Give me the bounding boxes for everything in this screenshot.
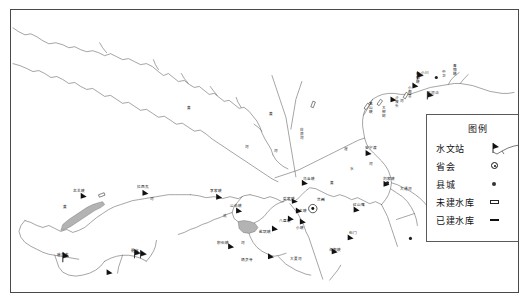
reservoir-label: 拉西瓦 <box>137 186 149 190</box>
hydro-station-symbols <box>63 72 434 263</box>
legend-label: 省会 <box>436 160 482 173</box>
county-dot-icon <box>492 182 496 186</box>
legend-item-planned-reservoir: 未建水库 <box>427 193 519 211</box>
legend-symbol-county <box>482 176 519 192</box>
legend-item-built-reservoir: 已建水库 <box>427 211 519 229</box>
legend-label: 水文站 <box>436 142 482 155</box>
station-flag-icon <box>140 250 146 258</box>
river-label: 水 <box>350 168 354 172</box>
station-label: 小川 <box>421 72 429 76</box>
reservoir-label: 海甸峡 <box>329 249 341 253</box>
map-screenshot-root: 黄 河 黄 河 河 黄 河 黄 河 洮 河 大夏河 湟 水 大通河 庄浪河 兰州… <box>0 0 531 304</box>
reservoir-open-icon <box>377 99 383 105</box>
legend-symbol-station <box>482 140 519 156</box>
reservoir-label: 大峡 <box>299 210 307 214</box>
river-label: 河 <box>274 150 278 154</box>
reservoir-label: 公伯峡 <box>230 205 242 209</box>
river-label: 湟 <box>344 148 348 152</box>
legend-item-hydro-station: 水文站 <box>427 139 519 157</box>
river-label: 黄 <box>63 206 67 210</box>
reservoir-open-icon <box>490 200 499 204</box>
reservoir-built-icon <box>300 219 306 226</box>
reservoir-label: 炳灵寺 <box>241 259 253 263</box>
reservoir-label: 青铜峡 <box>415 72 419 84</box>
reservoir-label: 积石峡 <box>217 242 229 246</box>
river-label: 庄浪河 <box>299 128 303 140</box>
reservoir-built-icon <box>107 269 113 276</box>
reservoir-label: 沙坡头 <box>394 96 398 108</box>
legend-item-county-town: 县城 <box>427 175 519 193</box>
county-dot-icon <box>409 237 412 240</box>
river-label: 黄 <box>187 107 191 111</box>
legend-label: 未建水库 <box>436 196 482 209</box>
capital-circle-icon <box>309 204 317 212</box>
county-dot-icon <box>435 76 438 79</box>
river-label: 黄 <box>269 113 273 117</box>
reservoir-label: 黑山峡 <box>368 102 372 114</box>
station-flag-icon <box>484 140 519 156</box>
legend-item-province-capital: 省会 <box>427 157 519 175</box>
planned-reservoir-symbols <box>98 92 408 197</box>
river-label: 河 <box>245 146 249 150</box>
county-label: 中卫 <box>441 70 445 78</box>
river-label: 大夏河 <box>290 258 302 262</box>
reservoir-label: 大柳树 <box>381 106 385 118</box>
reservoir-built-icon <box>268 253 274 260</box>
reservoir-label: 柴家峡 <box>283 198 295 202</box>
capital-circle-icon <box>491 162 498 169</box>
river-label: 大通河 <box>400 188 412 192</box>
reservoir-built-icon <box>216 194 222 201</box>
station-label: 唐乃亥 <box>57 254 69 258</box>
map-frame: 黄 河 黄 河 河 黄 河 黄 河 洮 河 大夏河 湟 水 大通河 庄浪河 兰州… <box>10 9 519 293</box>
legend-label: 已建水库 <box>436 214 482 227</box>
reservoir-water-bodies <box>61 202 258 234</box>
river-label: 洮 <box>223 215 227 219</box>
reservoir-built-icon <box>272 225 278 232</box>
legend-symbol-planned-reservoir <box>482 194 519 210</box>
city-label-lanzhou: 兰州 <box>317 199 325 203</box>
river-label: 河 <box>369 163 373 167</box>
reservoir-label: 小观音 <box>407 86 411 98</box>
reservoir-label: 八盘峡 <box>279 220 291 224</box>
station-label: 循化 <box>131 250 139 254</box>
reservoir-label: 龙羊峡 <box>73 190 85 194</box>
river-label: 河 <box>150 198 154 202</box>
legend-symbol-built-reservoir <box>482 212 519 228</box>
reservoir-label: 石门 <box>349 232 357 236</box>
river-label: 河 <box>400 100 404 104</box>
reservoir-built-icon <box>142 190 148 197</box>
legend-symbol-capital <box>482 158 519 174</box>
reservoir-open-icon <box>98 193 105 197</box>
city-markers <box>309 76 438 240</box>
reservoir-label: 安宁渡 <box>365 147 377 151</box>
reservoir-built-icon <box>366 150 372 157</box>
county-label: 青铜峡 <box>452 64 456 76</box>
map-legend: 图例 水文站 省会 县城 <box>426 114 519 242</box>
station-label: 下河沿 <box>427 92 439 96</box>
river-label: 黄 <box>330 182 334 186</box>
reservoir-label: 李家峡 <box>210 190 222 194</box>
legend-title: 图例 <box>427 122 519 135</box>
reservoir-label: 乌金峡 <box>303 178 315 182</box>
reservoir-label: 小峡 <box>296 227 304 231</box>
river-label: 河 <box>241 242 245 246</box>
legend-label: 县城 <box>436 178 482 191</box>
reservoir-built-icon <box>490 219 499 221</box>
reservoir-open-icon <box>311 101 315 107</box>
reservoir-built-icon <box>81 193 87 201</box>
reservoir-label: 盐锅峡 <box>259 231 271 235</box>
reservoir-label: 刘家峡 <box>383 178 395 182</box>
reservoir-label: 红山嘴 <box>353 204 365 208</box>
